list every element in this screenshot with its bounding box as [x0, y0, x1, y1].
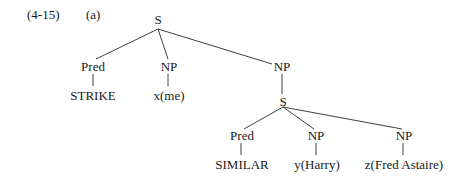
node-np-2: NP — [274, 60, 291, 74]
node-pred: Pred — [81, 60, 105, 74]
leaf-strike: STRIKE — [70, 89, 116, 103]
node-embedded-s: S — [279, 95, 286, 109]
leaf-x-me: x(me) — [153, 89, 184, 103]
node-root-s: S — [154, 13, 161, 27]
example-number: (4-15) — [27, 8, 60, 22]
leaf-similar: SIMILAR — [215, 158, 268, 172]
node-embedded-np-1: NP — [308, 129, 325, 143]
node-embedded-pred: Pred — [230, 129, 254, 143]
node-np-1: NP — [161, 60, 178, 74]
node-embedded-np-2: NP — [396, 129, 413, 143]
leaf-z-fred-astaire: z(Fred Astaire) — [365, 158, 443, 172]
leaf-y-harry: y(Harry) — [294, 158, 339, 172]
example-sublabel: (a) — [86, 8, 100, 22]
